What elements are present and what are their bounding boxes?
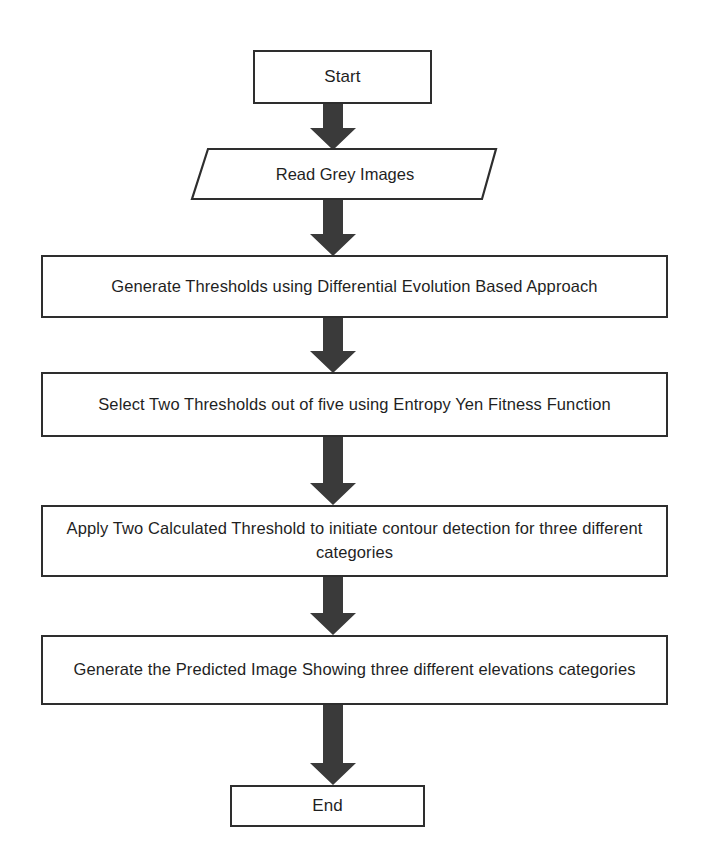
node-end[interactable]: End — [230, 785, 425, 827]
node-generate-thresholds-label: Generate Thresholds using Differential E… — [43, 275, 666, 299]
node-start[interactable]: Start — [253, 50, 432, 104]
node-start-label: Start — [255, 65, 430, 90]
node-generate-predicted-image[interactable]: Generate the Predicted Image Showing thr… — [41, 635, 668, 705]
arrow-select-two-thresholds-to-apply-thresholds — [310, 437, 356, 505]
arrow-read-grey-images-to-generate-thresholds — [310, 200, 356, 256]
node-select-two-thresholds[interactable]: Select Two Thresholds out of five using … — [41, 372, 668, 437]
flowchart-canvas: Start Read Grey Images Generate Threshol… — [0, 0, 723, 856]
node-read-grey-images-label: Read Grey Images — [185, 148, 505, 200]
arrow-start-to-read-grey-images — [310, 104, 356, 150]
arrow-generate-predicted-image-to-end — [310, 705, 356, 785]
arrow-generate-thresholds-to-select-two-thresholds — [310, 318, 356, 373]
node-apply-thresholds-label: Apply Two Calculated Threshold to initia… — [43, 517, 666, 565]
node-end-label: End — [232, 794, 423, 819]
arrow-apply-thresholds-to-generate-predicted-image — [310, 577, 356, 635]
node-apply-thresholds[interactable]: Apply Two Calculated Threshold to initia… — [41, 505, 668, 577]
node-select-two-thresholds-label: Select Two Thresholds out of five using … — [43, 393, 666, 417]
node-generate-predicted-image-label: Generate the Predicted Image Showing thr… — [43, 658, 666, 682]
node-generate-thresholds[interactable]: Generate Thresholds using Differential E… — [41, 255, 668, 318]
node-read-grey-images[interactable]: Read Grey Images — [185, 148, 505, 200]
